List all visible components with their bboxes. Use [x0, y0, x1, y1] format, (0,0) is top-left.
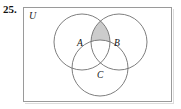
- shaded-region-a-intersect-b-minus-c: [23, 7, 172, 102]
- set-label-c: C: [97, 71, 103, 81]
- venn-circles: [23, 7, 172, 102]
- venn-diagram-figure: 25. U A B C: [0, 0, 181, 109]
- set-label-b: B: [114, 39, 120, 49]
- set-label-a: A: [77, 39, 83, 49]
- problem-number: 25.: [3, 4, 17, 15]
